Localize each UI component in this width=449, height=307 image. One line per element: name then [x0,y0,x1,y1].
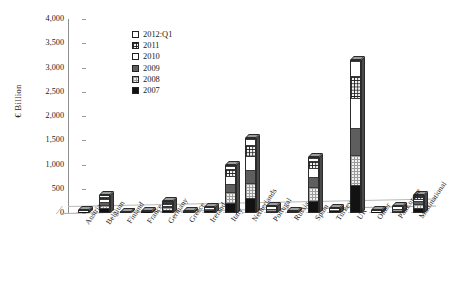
x-axis-label-france: France [145,202,164,225]
x-axis-label-italy: Italy [229,206,245,223]
x-axis-label-greece: Greece [187,201,207,224]
x-axis-label-germany: Germany [166,195,190,224]
x-axis-label-turkey: Turkey [334,198,354,221]
x-axis-label-austria: Austria [83,202,103,226]
x-axis-label-belgium: Belgium [104,198,126,225]
x-axis-label-portugal: Portugal [271,196,293,223]
x-axis-label-russia: Russia [292,200,311,222]
x-axis-label-multinational: Multinational [417,180,448,220]
x-axis-label-other: Other [375,201,392,221]
x-axis-label-uk: UK [355,207,369,221]
x-axis-label-finland: Finland [125,200,146,225]
x-axis-label-spain: Spain [313,202,330,222]
x-axis-label-ireland: Ireland [208,200,228,223]
